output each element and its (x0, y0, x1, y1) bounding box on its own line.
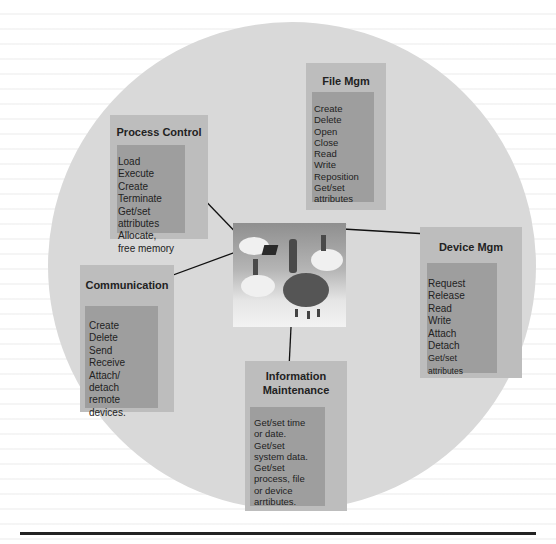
list-item: attributes (428, 365, 465, 377)
cloud-icon (241, 275, 275, 297)
person-icon (253, 259, 258, 275)
cloud-icon (311, 249, 343, 271)
node-items: Create Delete Send Receive Attach/ detac… (89, 320, 126, 419)
list-item: Open (314, 126, 359, 137)
node-items: Request Release Read Write Attach Detach… (428, 278, 465, 377)
list-item: Read (314, 148, 359, 159)
list-item: Close (314, 137, 359, 148)
node-items: Load Execute Create Terminate Get/set at… (118, 156, 174, 255)
node-title: Device Mgm (420, 240, 522, 254)
list-item: free memory (118, 243, 174, 255)
node-title: Process Control (110, 125, 208, 139)
dark-cloud-icon (283, 273, 329, 307)
binary-digit-icon (295, 309, 298, 317)
list-item: Create (314, 103, 359, 114)
list-item: Send (89, 345, 126, 357)
node-title-line: Maintenance (245, 383, 347, 397)
node-device-mgm: Device Mgm Request Release Read Write At… (420, 227, 522, 378)
list-item: Get/set (314, 182, 359, 193)
list-item: attributes (118, 218, 174, 230)
node-communication: Communication Create Delete Send Receive… (80, 265, 174, 412)
laptop-icon (262, 245, 279, 255)
list-item: Attach (428, 328, 465, 340)
people-on-clouds-illustration (233, 223, 346, 327)
list-item: attributes (314, 193, 359, 204)
binary-digit-icon (317, 309, 320, 317)
node-title: Information Maintenance (245, 369, 347, 397)
node-title: Communication (80, 278, 174, 292)
node-title-line: Information (245, 369, 347, 383)
node-items: Create Delete Open Close Read Write Repo… (314, 103, 359, 205)
node-items: Get/set time or date. Get/set system dat… (254, 417, 308, 507)
list-item: or date. (254, 428, 308, 439)
list-item: Write (314, 159, 359, 170)
person-icon (321, 235, 326, 251)
person-icon (289, 239, 297, 273)
list-item: Allocate, (118, 230, 174, 242)
list-item: Release (428, 290, 465, 302)
list-item: Attach/ (89, 370, 126, 382)
list-item: Write (428, 315, 465, 327)
list-item: Terminate (118, 193, 174, 205)
list-item: or device (254, 485, 308, 496)
list-item: Load (118, 156, 174, 168)
list-item: Create (118, 181, 174, 193)
horizontal-rule (20, 532, 536, 535)
node-file-mgm: File Mgm Create Delete Open Close Read W… (306, 63, 386, 210)
list-item: arrtibutes. (254, 496, 308, 507)
list-item: remote (89, 394, 126, 406)
list-item: Delete (89, 332, 126, 344)
list-item: detach (89, 382, 126, 394)
list-item: Delete (314, 114, 359, 125)
list-item: Request (428, 278, 465, 290)
list-item: process, file (254, 473, 308, 484)
list-item: Get/set (254, 462, 308, 473)
list-item: Get/set (254, 440, 308, 451)
node-title: File Mgm (306, 74, 386, 88)
list-item: Execute (118, 168, 174, 180)
node-process-control: Process Control Load Execute Create Term… (110, 115, 208, 239)
list-item: Detach (428, 340, 465, 352)
list-item: Get/set time (254, 417, 308, 428)
list-item: Read (428, 303, 465, 315)
node-information-maintenance: Information Maintenance Get/set time or … (245, 361, 347, 511)
list-item: Get/set (118, 206, 174, 218)
list-item: Get/set (428, 352, 465, 364)
list-item: Create (89, 320, 126, 332)
binary-digit-icon (307, 311, 310, 319)
list-item: system data. (254, 451, 308, 462)
list-item: Receive (89, 357, 126, 369)
list-item: devices. (89, 407, 126, 419)
list-item: Reposition (314, 171, 359, 182)
